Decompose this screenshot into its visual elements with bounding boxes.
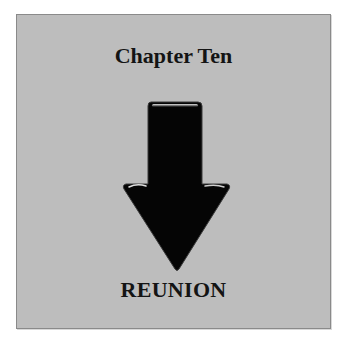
chapter-title: Chapter Ten bbox=[17, 43, 330, 69]
down-arrow-icon bbox=[121, 99, 233, 274]
chapter-subtitle: REUNION bbox=[17, 277, 330, 303]
chapter-card: Chapter Ten REUNION bbox=[16, 14, 331, 329]
